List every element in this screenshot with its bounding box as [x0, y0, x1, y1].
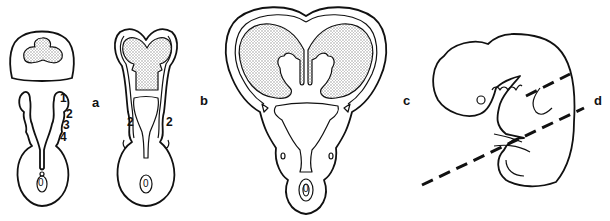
panel-b-center-label: 0 [143, 179, 149, 189]
panel-b-number-left: 2 [127, 116, 134, 128]
panel-a-number-4: 4 [60, 131, 67, 143]
panel-b-number-right: 2 [166, 116, 173, 128]
embryo-section-figure: 1 2 3 4 0 2 2 0 0 a b c d [0, 0, 610, 221]
panel-a-center-label: 0 [38, 178, 44, 188]
panel-a-label: a [92, 96, 99, 109]
panel-d-label: d [594, 94, 602, 107]
panel-d-drawing [422, 34, 584, 186]
panel-c-center-label: 0 [303, 184, 309, 194]
panel-c-label: c [403, 94, 410, 107]
panel-a-number-1: 1 [60, 92, 67, 104]
panel-b-label: b [200, 94, 208, 107]
